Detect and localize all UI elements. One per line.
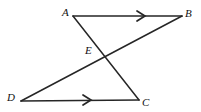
vertex-label-c: C — [142, 97, 149, 108]
vertex-label-a: A — [62, 7, 69, 18]
geometry-canvas — [0, 0, 201, 112]
vertex-label-d: D — [7, 92, 15, 103]
geometry-figure: A B C D E — [0, 0, 201, 112]
vertex-label-b: B — [185, 8, 192, 19]
segment-AC — [73, 16, 139, 100]
segment-DC — [21, 100, 139, 101]
vertex-label-e: E — [85, 45, 92, 56]
segment-DB — [21, 16, 182, 101]
